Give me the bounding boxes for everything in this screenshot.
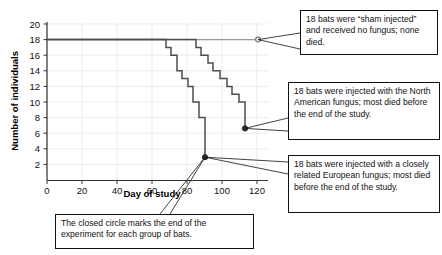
leader-line-european xyxy=(205,157,288,174)
y-tick-label-2: 2 xyxy=(18,160,40,170)
series-north-american-fungus xyxy=(47,40,245,129)
sham-injected-callout-text: 18 bats were “sham injected” and receive… xyxy=(306,14,432,48)
figure-root: 20 18 16 14 12 10 8 6 4 2 0 20 40 60 80 … xyxy=(0,0,442,255)
sham-injected-callout: 18 bats were “sham injected” and receive… xyxy=(300,10,438,55)
closed-circle-legend-callout: The closed circle marks the end of the e… xyxy=(55,214,254,249)
y-axis-title: Number of individuals xyxy=(10,59,20,151)
north-american-fungus-callout-text: 18 bats were injected with the North Ame… xyxy=(294,86,434,120)
leader-line-sham xyxy=(258,33,300,49)
series-european-fungus xyxy=(47,40,205,158)
axis-lines xyxy=(47,22,268,181)
closed-circle-legend-callout-text: The closed circle marks the end of the e… xyxy=(61,218,248,241)
x-tick-label-0: 0 xyxy=(34,186,60,196)
grid-vertical xyxy=(47,22,257,180)
x-tick-label-120: 120 xyxy=(244,186,270,196)
y-tick-label-10: 10 xyxy=(18,98,40,108)
y-tick-label-14: 14 xyxy=(18,66,40,76)
european-fungus-callout-text: 18 bats were injected with a closely rel… xyxy=(294,159,434,193)
x-axis-title: Day of study xyxy=(79,189,225,199)
y-tick-label-12: 12 xyxy=(18,82,40,92)
y-tick-label-20: 20 xyxy=(18,20,40,30)
leader-line-north-american xyxy=(245,118,288,131)
north-american-fungus-callout: 18 bats were injected with the North Ame… xyxy=(288,82,440,140)
y-tick-label-8: 8 xyxy=(18,113,40,123)
y-tick-label-4: 4 xyxy=(18,144,40,154)
y-tick-label-16: 16 xyxy=(18,51,40,61)
y-tick-label-6: 6 xyxy=(18,129,40,139)
y-tick-label-18: 18 xyxy=(18,35,40,45)
european-fungus-callout: 18 bats were injected with a closely rel… xyxy=(288,155,440,213)
